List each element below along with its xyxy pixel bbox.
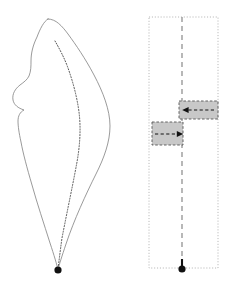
- diagram-canvas: [0, 0, 225, 285]
- canvas-background: [0, 0, 225, 285]
- upper-shifted-block: [179, 101, 218, 119]
- figure-root: [0, 0, 225, 285]
- axis-base-dot: [178, 265, 185, 272]
- convergence-point-marker: [54, 266, 61, 273]
- lower-shifted-block: [152, 122, 183, 145]
